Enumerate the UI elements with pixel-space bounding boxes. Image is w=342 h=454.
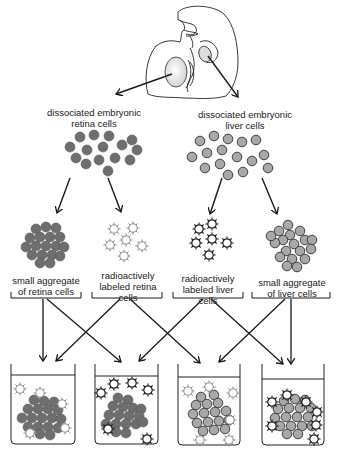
label-labeled-liver: radioactively labeled liver cells	[168, 273, 248, 306]
label-line: of liver cells	[252, 288, 332, 299]
label-line: labeled retina	[88, 281, 168, 292]
label-line: dissociated embryonic	[34, 107, 154, 118]
label-line: liver cells	[185, 120, 305, 131]
arrows-to-beakers	[43, 299, 291, 364]
arrow-retina-source	[116, 74, 172, 94]
label-retina-aggregate: small aggregate of retina cells	[6, 275, 86, 297]
label-line: dissociated embryonic	[185, 109, 305, 120]
diagram-canvas: dissociated embryonic retina cells disso…	[0, 0, 342, 454]
label-line: radioactively	[88, 270, 168, 281]
label-liver-aggregate: small aggregate of liver cells	[252, 277, 332, 299]
label-line: radioactively	[168, 273, 248, 284]
label-line: cells	[88, 292, 168, 303]
label-line: of retina cells	[6, 286, 86, 297]
dissociated-retina-cells	[65, 130, 142, 176]
beaker-1	[11, 364, 75, 444]
arrows-to-middle	[57, 178, 277, 214]
dissociated-liver-cells	[187, 131, 273, 180]
label-line: small aggregate	[6, 275, 86, 286]
beaker-2	[94, 364, 158, 446]
embryo-illustration	[146, 6, 238, 98]
label-line: cells	[168, 295, 248, 306]
labeled-retina-cells	[103, 221, 148, 262]
beaker-3	[178, 364, 240, 447]
arrow-liver-source	[208, 56, 238, 97]
diagram-svg	[0, 0, 342, 454]
label-line: labeled liver	[168, 284, 248, 295]
label-labeled-retina: radioactively labeled retina cells	[88, 270, 168, 303]
label-dissociated-retina: dissociated embryonic retina cells	[34, 107, 154, 129]
retina-aggregate	[21, 222, 69, 268]
liver-aggregate	[266, 220, 317, 272]
label-line: small aggregate	[252, 277, 332, 288]
label-line: retina cells	[34, 118, 154, 129]
label-dissociated-liver: dissociated embryonic liver cells	[185, 109, 305, 131]
labeled-liver-cells	[189, 217, 233, 261]
beaker-4	[262, 364, 324, 446]
